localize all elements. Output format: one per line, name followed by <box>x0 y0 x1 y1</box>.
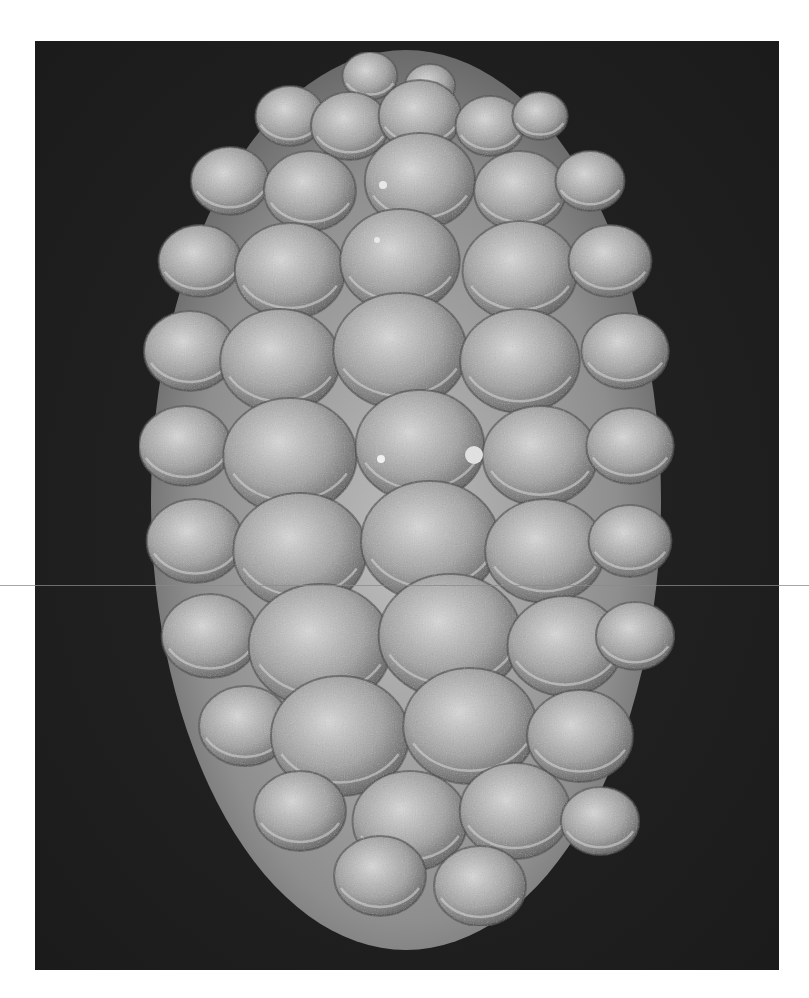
cell <box>139 406 231 486</box>
cell <box>264 151 356 231</box>
surface-particle <box>379 181 387 189</box>
cell <box>589 505 672 577</box>
cell <box>485 499 605 603</box>
surface-particle <box>465 446 483 464</box>
cell <box>483 406 598 506</box>
specimen-graphic <box>35 41 779 970</box>
cell <box>147 499 244 583</box>
cell <box>162 594 259 678</box>
surface-particle <box>377 455 385 463</box>
cell <box>460 309 580 413</box>
cell <box>220 309 340 413</box>
sem-micrograph <box>35 41 779 970</box>
cell <box>235 223 345 319</box>
cell <box>254 771 346 851</box>
cell <box>527 690 633 782</box>
cell <box>434 846 526 926</box>
cell <box>581 313 668 389</box>
page <box>0 0 809 998</box>
scan-artifact-line <box>0 585 809 586</box>
surface-particle <box>374 237 380 243</box>
cell <box>596 602 674 670</box>
cell <box>463 221 578 321</box>
cell <box>159 225 242 297</box>
cell <box>586 408 673 484</box>
cell <box>334 836 426 916</box>
cell <box>191 147 269 215</box>
cell <box>512 92 567 140</box>
cell <box>474 151 566 231</box>
cell <box>556 151 625 211</box>
cell <box>569 225 652 297</box>
cell <box>561 787 639 855</box>
cell <box>460 763 570 859</box>
